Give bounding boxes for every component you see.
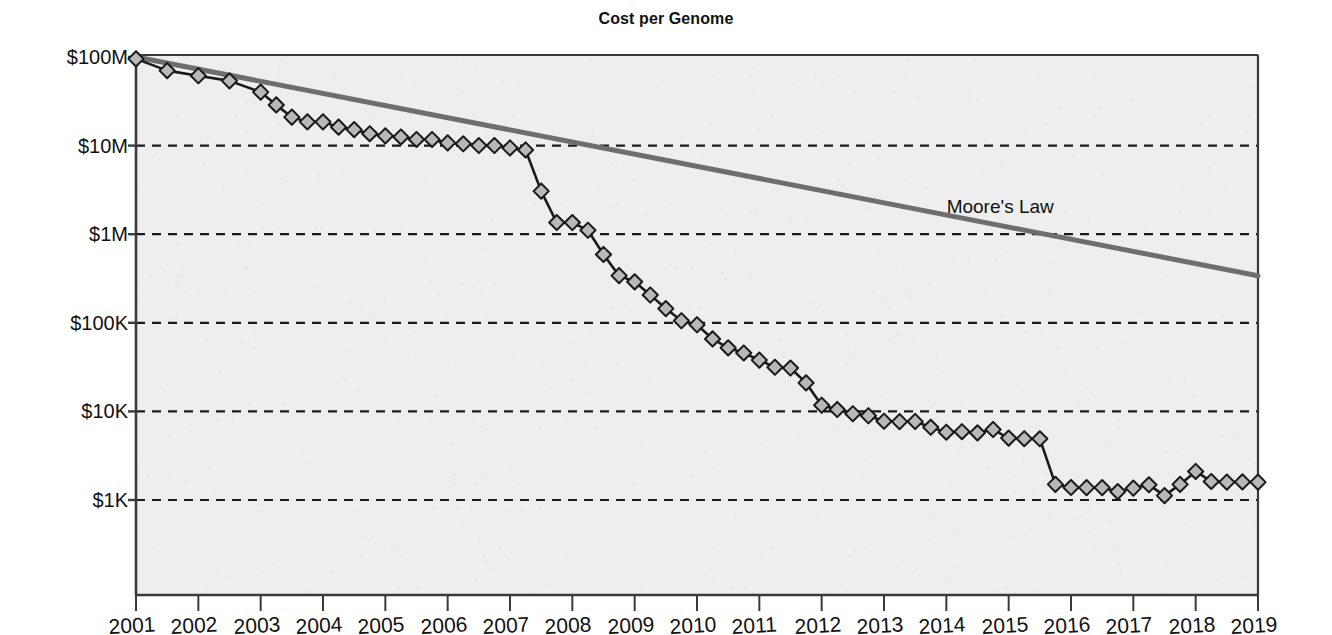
x-tick-label: 2002 [170, 612, 218, 635]
x-tick-label: 2014 [918, 612, 966, 635]
x-tick-label: 2008 [544, 612, 592, 635]
x-tick-label: 2016 [1043, 612, 1091, 635]
x-tick-label: 2001 [108, 612, 156, 635]
cost-per-genome-chart: Cost per Genome $100M$10M$1M$100K$10K$1K… [0, 0, 1332, 635]
x-tick-label: 2015 [981, 612, 1029, 635]
x-tick-label: 2012 [794, 612, 842, 635]
x-tick-label: 2018 [1168, 612, 1216, 635]
x-tick-label: 2010 [669, 612, 717, 635]
x-tick-label: 2004 [295, 612, 343, 635]
x-tick-label: 2003 [233, 612, 281, 635]
x-tick-label: 2013 [856, 612, 904, 635]
x-tick-label: 2011 [731, 612, 777, 635]
x-tick-label: 2005 [357, 612, 405, 635]
x-tick-label: 2009 [607, 612, 655, 635]
x-tick-label: 2006 [420, 612, 468, 635]
x-tick-label: 2017 [1105, 612, 1153, 635]
x-tick-label: 2019 [1230, 612, 1278, 635]
x-tick-label: 2007 [482, 612, 530, 635]
x-axis-labels: 2001200220032004200520062007200820092010… [0, 0, 1332, 635]
moores-law-annotation: Moore's Law [947, 196, 1054, 218]
